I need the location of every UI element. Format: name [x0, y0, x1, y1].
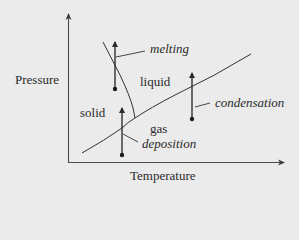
- process-label-deposition: deposition: [142, 137, 196, 150]
- region-label-liquid: liquid: [140, 75, 170, 88]
- solid-liquid-boundary: [103, 42, 135, 118]
- condensation-arrow-start-dot: [190, 117, 194, 121]
- region-label-solid: solid: [80, 106, 105, 119]
- deposition-leader-line: [123, 134, 138, 142]
- process-label-melting: melting: [150, 42, 189, 55]
- condensation-leader-line: [195, 103, 210, 107]
- solid-gas-boundary: [82, 118, 135, 153]
- process-label-condensation: condensation: [215, 96, 284, 109]
- melting-leader-line: [116, 51, 145, 57]
- region-label-gas: gas: [150, 122, 167, 135]
- deposition-arrow-start-dot: [120, 153, 124, 157]
- melting-arrow-start-dot: [113, 87, 117, 91]
- x-axis-label: Temperature: [130, 169, 196, 182]
- y-axis-label: Pressure: [15, 73, 59, 86]
